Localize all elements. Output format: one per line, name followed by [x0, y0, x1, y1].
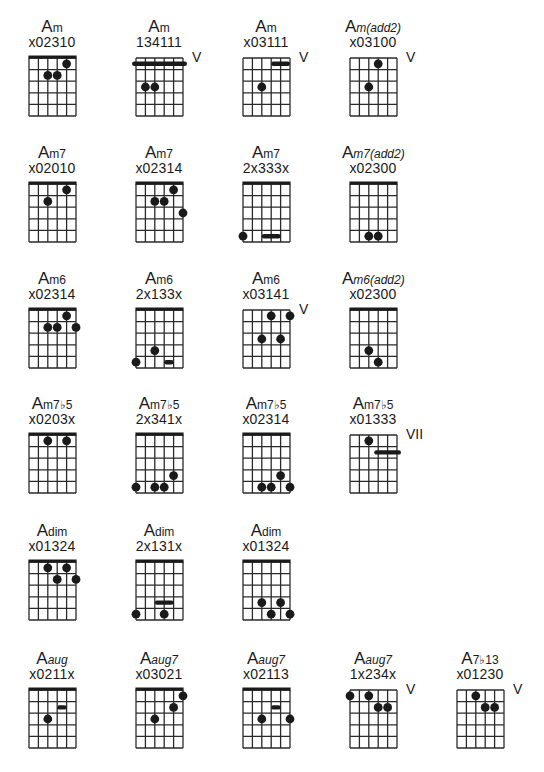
- nut: [135, 308, 183, 311]
- nut: [135, 433, 183, 436]
- chord-quality: m7♭5: [150, 398, 179, 412]
- chord-diagram: Am7♭5x02314: [235, 395, 335, 505]
- chord-name: Am(add2): [342, 18, 404, 35]
- chord-fingering: 1x234x: [342, 667, 404, 681]
- finger-dot: [43, 323, 52, 332]
- fret-position-label: V: [513, 682, 522, 696]
- nut: [242, 433, 290, 436]
- chord-name: Am: [128, 18, 190, 35]
- finger-dot: [364, 691, 373, 700]
- chord-fingering: x03111: [235, 35, 297, 49]
- finger-dot: [490, 703, 499, 712]
- finger-dot: [43, 71, 52, 80]
- chord-name: Adim: [21, 522, 83, 539]
- finger-dot: [267, 610, 276, 619]
- chord-fingering: x02300: [342, 287, 404, 301]
- chord-diagram: Am7♭52x341x: [128, 395, 228, 505]
- chord-quality: aug7: [151, 653, 178, 667]
- chord-name: Am6: [235, 270, 297, 287]
- chord-quality: aug: [48, 653, 68, 667]
- finger-dot: [286, 715, 295, 724]
- finger-dot: [141, 83, 150, 92]
- nut: [242, 560, 290, 563]
- nut: [242, 688, 290, 691]
- chord-fingering: x01333: [342, 412, 404, 426]
- chord-fingering: x01324: [21, 539, 83, 553]
- chord-name: Adim: [235, 522, 297, 539]
- finger-dot: [150, 83, 159, 92]
- chord-name: Am6: [21, 270, 83, 287]
- chord-fingering: x02010: [21, 161, 83, 175]
- chord-fingering: 2x131x: [128, 539, 190, 553]
- chord-fingering: 134111: [128, 35, 190, 49]
- fretboard-grid: [128, 425, 208, 505]
- chord-diagram: Amx02310: [21, 18, 121, 128]
- finger-dot: [374, 703, 383, 712]
- chord-fingering: x02310: [21, 35, 83, 49]
- chord-quality: m7♭5: [364, 398, 393, 412]
- finger-dot: [257, 715, 266, 724]
- finger-dot: [179, 691, 188, 700]
- chord-fingering: x02113: [235, 667, 297, 681]
- finger-dot: [150, 483, 159, 492]
- finger-dot: [72, 323, 81, 332]
- chord-diagram: Am6x02314: [21, 270, 121, 380]
- nut: [135, 560, 183, 563]
- chord-fingering: x0203x: [21, 412, 83, 426]
- finger-dot: [364, 232, 373, 241]
- finger-dot: [169, 471, 178, 480]
- chord-quality: m6(add2): [353, 273, 404, 287]
- chord-name: Am7♭5: [342, 395, 404, 412]
- chord-fingering: 2x333x: [235, 161, 297, 175]
- chord-name: Aaug7: [235, 650, 297, 667]
- chord-name: Am7♭5: [235, 395, 297, 412]
- chord-diagram: Adim2x131x: [128, 522, 228, 632]
- finger-dot: [169, 185, 178, 194]
- finger-dot: [132, 483, 141, 492]
- chord-fingering: x02314: [21, 287, 83, 301]
- finger-dot: [364, 83, 373, 92]
- finger-dot: [53, 575, 62, 584]
- chord-quality: m7: [156, 147, 173, 161]
- finger-dot: [346, 691, 355, 700]
- chord-quality: m7♭5: [257, 398, 286, 412]
- barre: [374, 450, 401, 454]
- chord-fingering: x01230: [449, 667, 511, 681]
- chord-quality: m(add2): [356, 21, 401, 35]
- chord-fingering: x02314: [235, 412, 297, 426]
- finger-dot: [43, 197, 52, 206]
- chord-name: A7♭13: [449, 650, 511, 667]
- chord-diagram: Amx03111V: [235, 18, 335, 128]
- chord-diagram: Adimx01324: [21, 522, 121, 632]
- fretboard-grid: [21, 425, 101, 505]
- chord-name: Am: [21, 18, 83, 35]
- chord-fingering: x02300: [342, 161, 404, 175]
- chord-diagram: Aaugx0211x: [21, 650, 121, 760]
- chord-quality: m: [53, 21, 63, 35]
- chord-diagram: Am134111V: [128, 18, 228, 128]
- chord-quality: m7♭5: [43, 398, 72, 412]
- chord-diagram: Am72x333x: [235, 144, 335, 254]
- chord-diagram: Am62x133x: [128, 270, 228, 380]
- chord-diagram: Aaug71x234xV: [342, 650, 442, 760]
- chord-name: Am7: [128, 144, 190, 161]
- chord-quality: aug7: [365, 653, 392, 667]
- finger-dot: [132, 358, 141, 367]
- finger-dot: [383, 703, 392, 712]
- chord-fingering: 2x133x: [128, 287, 190, 301]
- chord-quality: aug7: [258, 653, 285, 667]
- fret-position-label: V: [406, 50, 415, 64]
- fretboard-grid: [128, 300, 208, 380]
- chord-fingering: x02314: [128, 161, 190, 175]
- finger-dot: [43, 563, 52, 572]
- chord-fingering: 2x341x: [128, 412, 190, 426]
- finger-dot: [150, 346, 159, 355]
- fretboard-grid: [21, 300, 101, 380]
- chord-name: Am7(add2): [342, 144, 404, 161]
- fretboard-grid: [21, 48, 101, 128]
- nut: [242, 182, 290, 185]
- barre: [262, 234, 281, 238]
- finger-dot: [374, 232, 383, 241]
- chord-fingering: x03141: [235, 287, 297, 301]
- chord-fingering: x03021: [128, 667, 190, 681]
